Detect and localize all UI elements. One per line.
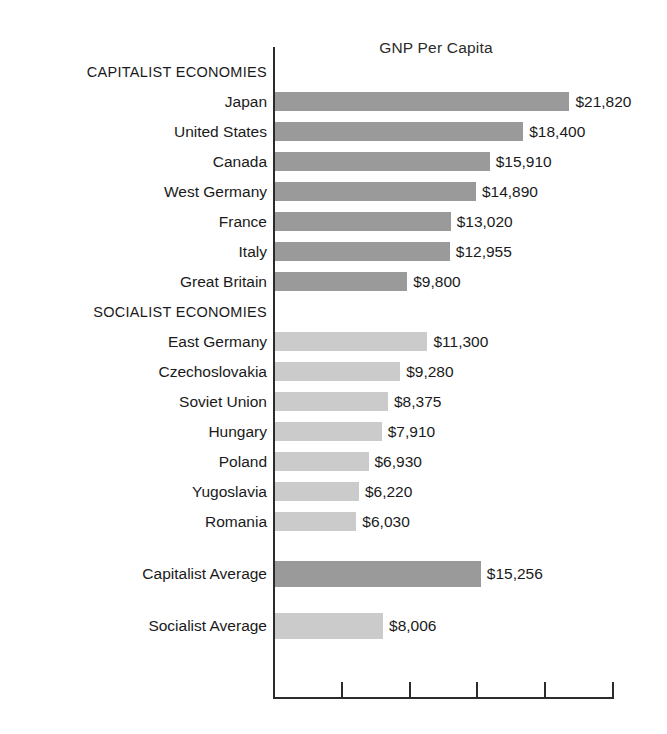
section-heading-label: CAPITALIST ECONOMIES [0, 57, 267, 87]
bar-value-label: $8,006 [383, 611, 436, 641]
x-axis-tick [409, 682, 411, 697]
bar-row-label: Great Britain [0, 267, 267, 297]
x-axis-tick [612, 682, 614, 697]
bar-row-label: East Germany [0, 327, 267, 357]
bar-value-label: $8,375 [388, 387, 441, 417]
bar-row-label: Yugoslavia [0, 477, 267, 507]
bar-value-label: $15,910 [490, 147, 552, 177]
x-axis-tick [273, 682, 275, 697]
bar-value-label: $9,280 [400, 357, 453, 387]
bar-row-label: Romania [0, 507, 267, 537]
bar-capitalist [275, 152, 490, 171]
bar-row: Yugoslavia$6,220 [0, 477, 667, 507]
section-heading-row: CAPITALIST ECONOMIES [0, 57, 667, 87]
bar-socialist [275, 332, 427, 351]
bar-row: France$13,020 [0, 207, 667, 237]
bar-socialist [275, 452, 369, 471]
bar-value-label: $12,955 [450, 237, 512, 267]
bar-capitalist [275, 122, 523, 141]
gnp-per-capita-chart: GNP Per Capita CAPITALIST ECONOMIESJapan… [0, 0, 667, 734]
bar-value-label: $21,820 [569, 87, 631, 117]
section-heading-label: SOCIALIST ECONOMIES [0, 297, 267, 327]
x-axis-tick [476, 682, 478, 697]
bar-row-label: West Germany [0, 177, 267, 207]
bar-row: Poland$6,930 [0, 447, 667, 477]
bar-row: Great Britain$9,800 [0, 267, 667, 297]
bar-capitalist [275, 182, 476, 201]
bar-row: Italy$12,955 [0, 237, 667, 267]
bar-row: Socialist Average$8,006 [0, 611, 667, 641]
bar-socialist [275, 512, 356, 531]
bar-row-label: Italy [0, 237, 267, 267]
x-axis-tick [544, 682, 546, 697]
bar-row-label: Canada [0, 147, 267, 177]
bar-row-label: Hungary [0, 417, 267, 447]
bar-socialist [275, 392, 388, 411]
bar-value-label: $6,030 [356, 507, 409, 537]
bar-socialist [275, 422, 382, 441]
bar-capitalist [275, 272, 407, 291]
bar-value-label: $15,256 [481, 559, 543, 589]
bar-capitalist [275, 212, 451, 231]
bar-row: Japan$21,820 [0, 87, 667, 117]
x-axis-line [273, 697, 614, 699]
bar-row: Czechoslovakia$9,280 [0, 357, 667, 387]
bar-row: United States$18,400 [0, 117, 667, 147]
bar-value-label: $18,400 [523, 117, 585, 147]
chart-title: GNP Per Capita [286, 39, 586, 57]
bar-row-label: France [0, 207, 267, 237]
bar-socialist [275, 482, 359, 501]
bar-value-label: $9,800 [407, 267, 460, 297]
bar-value-label: $11,300 [427, 327, 488, 357]
bar-row: Soviet Union$8,375 [0, 387, 667, 417]
bar-capitalist [275, 92, 569, 111]
bar-capitalist [275, 561, 481, 587]
bar-value-label: $6,930 [369, 447, 422, 477]
bar-capitalist [275, 242, 450, 261]
bar-socialist [275, 613, 383, 639]
x-axis-tick [341, 682, 343, 697]
bar-row-label: Poland [0, 447, 267, 477]
bar-row: Hungary$7,910 [0, 417, 667, 447]
bar-row: Romania$6,030 [0, 507, 667, 537]
bar-value-label: $14,890 [476, 177, 538, 207]
bar-value-label: $6,220 [359, 477, 412, 507]
bar-row-label: Japan [0, 87, 267, 117]
bar-row-label: United States [0, 117, 267, 147]
bar-row-label: Capitalist Average [0, 559, 267, 589]
bar-row: East Germany$11,300 [0, 327, 667, 357]
bar-socialist [275, 362, 400, 381]
bar-row: West Germany$14,890 [0, 177, 667, 207]
bar-row-label: Soviet Union [0, 387, 267, 417]
bar-row: Capitalist Average$15,256 [0, 559, 667, 589]
bar-value-label: $7,910 [382, 417, 435, 447]
bar-value-label: $13,020 [451, 207, 513, 237]
bar-row: Canada$15,910 [0, 147, 667, 177]
section-heading-row: SOCIALIST ECONOMIES [0, 297, 667, 327]
bar-row-label: Socialist Average [0, 611, 267, 641]
bar-row-label: Czechoslovakia [0, 357, 267, 387]
